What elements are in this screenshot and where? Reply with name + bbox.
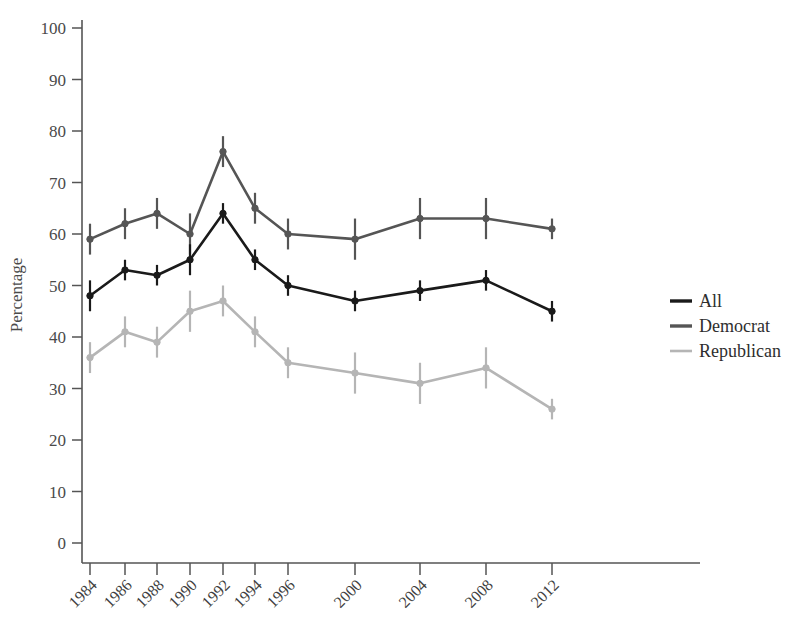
data-point [252, 205, 258, 211]
x-axis: 1984198619881990199219941996200020042008… [65, 563, 700, 611]
series-line [90, 152, 552, 240]
data-point [154, 272, 160, 278]
data-point [252, 257, 258, 263]
data-point [87, 293, 93, 299]
y-tick-label: 80 [49, 122, 66, 141]
data-point [252, 329, 258, 335]
series-democrat [87, 136, 555, 260]
series-line [90, 213, 552, 311]
data-point [187, 257, 193, 263]
data-point [220, 148, 226, 154]
x-tick-label: 2012 [527, 576, 562, 611]
x-tick-label: 1994 [230, 576, 265, 611]
data-point [417, 380, 423, 386]
y-tick-label: 10 [49, 483, 66, 502]
chart-legend: AllDemocratRepublican [670, 291, 781, 361]
x-tick-label: 1992 [198, 576, 233, 611]
x-tick-label: 1986 [100, 576, 135, 611]
legend-label-all: All [699, 291, 722, 311]
x-tick-label: 2004 [395, 576, 430, 611]
data-point [87, 236, 93, 242]
data-point [549, 406, 555, 412]
y-tick-label: 30 [49, 380, 66, 399]
y-tick-label: 70 [49, 174, 66, 193]
x-tick-label: 1990 [165, 576, 200, 611]
y-tick-label: 100 [41, 19, 67, 38]
x-tick-label: 1984 [65, 576, 100, 611]
data-point [285, 360, 291, 366]
data-point [122, 221, 128, 227]
x-tick-label: 1996 [263, 576, 298, 611]
data-point [122, 329, 128, 335]
data-point [549, 308, 555, 314]
y-tick-label: 20 [49, 431, 66, 450]
data-point [352, 370, 358, 376]
line-chart: 0102030405060708090100 Percentage 198419… [0, 0, 793, 625]
data-point [549, 226, 555, 232]
y-tick-group: 0102030405060708090100 [41, 19, 83, 553]
data-point [187, 231, 193, 237]
data-point [352, 236, 358, 242]
y-tick-label: 50 [49, 277, 66, 296]
x-tick-group: 1984198619881990199219941996200020042008… [65, 563, 562, 611]
y-tick-label: 40 [49, 328, 66, 347]
data-point [122, 267, 128, 273]
data-point [417, 287, 423, 293]
y-tick-label: 60 [49, 225, 66, 244]
series-republican [87, 286, 555, 420]
data-point [483, 277, 489, 283]
data-point [285, 282, 291, 288]
data-point [483, 215, 489, 221]
data-point [220, 298, 226, 304]
x-tick-label: 2000 [330, 576, 365, 611]
data-point [352, 298, 358, 304]
data-point [285, 231, 291, 237]
data-point [483, 365, 489, 371]
data-point [220, 210, 226, 216]
x-tick-label: 2008 [461, 576, 496, 611]
x-tick-label: 1988 [132, 576, 167, 611]
data-point [187, 308, 193, 314]
data-point [87, 354, 93, 360]
legend-label-republican: Republican [699, 341, 781, 361]
data-point [417, 215, 423, 221]
y-tick-label: 90 [49, 71, 66, 90]
y-axis: 0102030405060708090100 Percentage [7, 19, 82, 563]
data-point [154, 339, 160, 345]
y-tick-label: 0 [58, 534, 67, 553]
chart-container: 0102030405060708090100 Percentage 198419… [0, 0, 793, 625]
series-group [87, 136, 555, 419]
y-axis-title: Percentage [7, 258, 26, 333]
data-point [154, 210, 160, 216]
legend-label-democrat: Democrat [699, 316, 770, 336]
series-line [90, 301, 552, 409]
